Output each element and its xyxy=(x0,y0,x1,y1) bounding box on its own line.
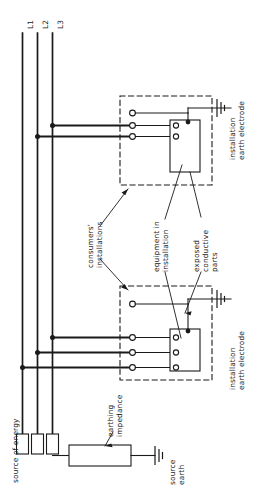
leader-exposed-parts-upper xyxy=(190,172,201,217)
schematic-drawing xyxy=(0,0,261,493)
exposed-conductive-parts-label: exposed conductive parts xyxy=(192,230,220,272)
upper-installation-terminals xyxy=(130,110,136,139)
leader-equipment-lower xyxy=(165,272,181,338)
consumers-installations-label: consumers' installations xyxy=(86,221,104,268)
bus-label-L2: L2 xyxy=(41,20,50,29)
upper-equipment-bond-dot xyxy=(186,120,191,125)
lower-equipment-bond-dot xyxy=(186,329,191,334)
equipment-in-installation-label: equipment in installation xyxy=(152,221,170,272)
earthing-impedance-block xyxy=(69,445,131,466)
source-of-energy-label: source of energy xyxy=(11,418,20,483)
bus-label-L1: L1 xyxy=(26,20,35,29)
bus-label-L3: L3 xyxy=(56,20,65,29)
leader-exposed-parts-lower xyxy=(185,272,201,316)
source-earth-label: source earth xyxy=(168,460,186,485)
lower-installation-terminals xyxy=(130,301,136,370)
installation-earth-electrode-label-upper: installation earth electrode xyxy=(228,101,246,160)
source-earth-symbol xyxy=(155,447,163,465)
installation-earth-electrode-label-lower: installation earth electrode xyxy=(228,331,246,390)
leader-equipment-upper xyxy=(165,165,182,219)
earthing-impedance-label: earthing impedance xyxy=(106,395,124,437)
source-terminal-boxes xyxy=(17,434,59,454)
diagram-canvas: L1 L2 L3 source of energy earthing imped… xyxy=(0,0,261,493)
